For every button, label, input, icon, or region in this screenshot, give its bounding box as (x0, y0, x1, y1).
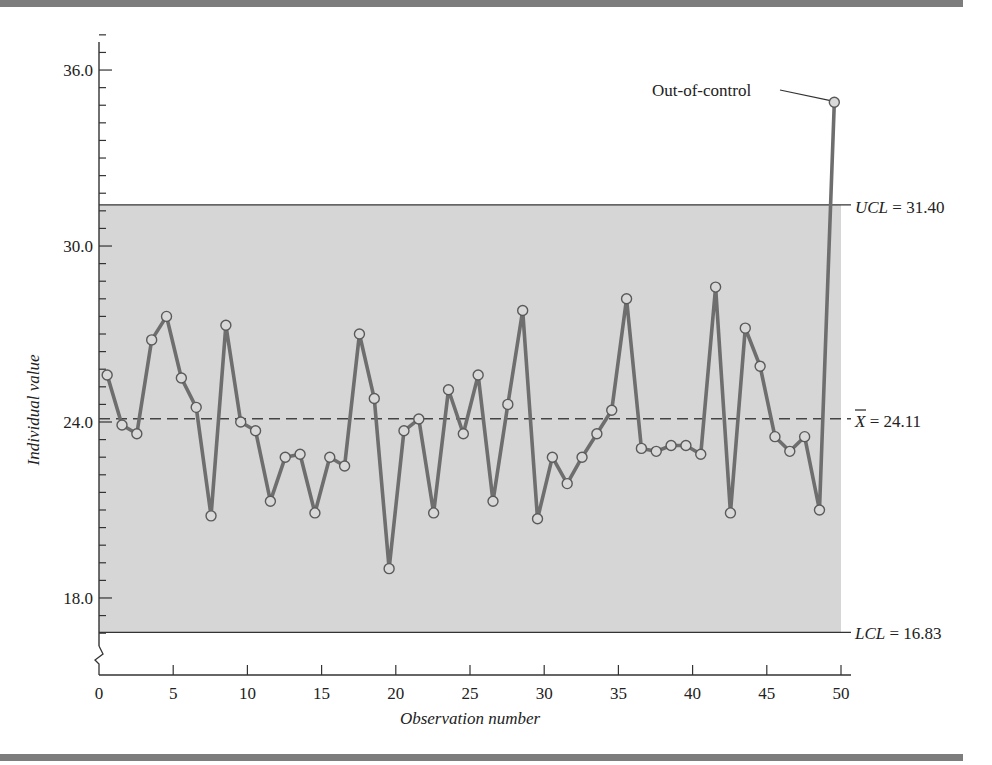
ucl-label: UCL = 31.40 (855, 198, 944, 217)
data-point-marker (829, 97, 839, 107)
x-axis: 05101520253035404550 (95, 665, 851, 703)
data-point-marker (295, 449, 305, 459)
data-point-marker (725, 508, 735, 518)
data-point-marker (577, 452, 587, 462)
ucl-value: = 31.40 (892, 198, 944, 217)
x-tick-label: 15 (313, 684, 330, 703)
data-point-marker (607, 405, 617, 415)
y-tick-label: 30.0 (63, 237, 93, 256)
data-point-marker (533, 514, 543, 524)
data-point-marker (325, 452, 335, 462)
x-tick-label: 30 (536, 684, 553, 703)
data-point-marker (651, 446, 661, 456)
y-tick-label: 24.0 (63, 413, 93, 432)
data-point-marker (147, 335, 157, 345)
data-point-marker (443, 385, 453, 395)
data-point-marker (696, 449, 706, 459)
x-axis-title: Observation number (400, 709, 541, 728)
data-point-marker (414, 414, 424, 424)
data-point-marker (206, 511, 216, 521)
data-point-marker (636, 443, 646, 453)
ucl-name: UCL (855, 198, 888, 217)
data-point-marker (236, 417, 246, 427)
data-point-marker (458, 429, 468, 439)
out-of-control-label: Out-of-control (652, 81, 751, 100)
data-point-marker (503, 399, 513, 409)
data-point-marker (399, 426, 409, 436)
data-point-marker (592, 429, 602, 439)
data-point-marker (176, 373, 186, 383)
data-point-marker (755, 361, 765, 371)
data-point-marker (770, 432, 780, 442)
x-tick-label: 10 (239, 684, 256, 703)
data-point-marker (310, 508, 320, 518)
data-point-marker (102, 370, 112, 380)
data-point-marker (354, 329, 364, 339)
data-point-marker (800, 432, 810, 442)
data-point-marker (429, 508, 439, 518)
data-point-marker (681, 440, 691, 450)
data-point-marker (132, 429, 142, 439)
data-point-marker (488, 496, 498, 506)
data-point-marker (162, 311, 172, 321)
data-point-marker (562, 479, 572, 489)
data-point-marker (384, 564, 394, 574)
data-point-marker (740, 323, 750, 333)
data-point-marker (666, 440, 676, 450)
center-value: = 24.11 (870, 412, 921, 431)
x-tick-label: 20 (387, 684, 404, 703)
data-point-marker (785, 446, 795, 456)
data-point-marker (711, 282, 721, 292)
data-point-marker (473, 370, 483, 380)
x-tick-label: 40 (684, 684, 701, 703)
control-chart: 18.024.030.036.0 05101520253035404550 Ou… (0, 0, 992, 765)
y-tick-label: 18.0 (63, 589, 93, 608)
y-axis-title: Individual value (24, 354, 43, 466)
x-tick-label: 50 (833, 684, 850, 703)
data-point-marker (280, 452, 290, 462)
y-tick-label: 36.0 (63, 61, 93, 80)
x-tick-label: 45 (758, 684, 775, 703)
center-label: X = 24.11 (854, 412, 921, 431)
data-point-marker (518, 306, 528, 316)
lcl-name: LCL (854, 624, 885, 643)
annotation-leader-line (780, 90, 829, 100)
lcl-label: LCL = 16.83 (854, 624, 942, 643)
data-point-marker (622, 294, 632, 304)
data-point-marker (221, 320, 231, 330)
data-point-marker (340, 461, 350, 471)
x-tick-label: 25 (462, 684, 479, 703)
x-tick-label: 5 (169, 684, 178, 703)
data-point-marker (251, 426, 261, 436)
center-name: X (854, 412, 866, 431)
data-point-marker (369, 394, 379, 404)
data-point-marker (547, 452, 557, 462)
x-tick-label: 0 (95, 684, 104, 703)
data-point-marker (814, 505, 824, 515)
x-tick-label: 35 (610, 684, 627, 703)
lcl-value: = 16.83 (890, 624, 942, 643)
data-point-marker (265, 496, 275, 506)
data-point-marker (191, 402, 201, 412)
data-point-marker (117, 420, 127, 430)
